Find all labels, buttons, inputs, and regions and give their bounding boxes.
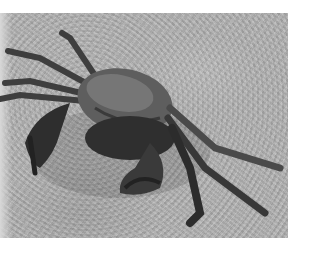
crab-illustration bbox=[0, 13, 288, 238]
crab-photo bbox=[0, 13, 288, 238]
